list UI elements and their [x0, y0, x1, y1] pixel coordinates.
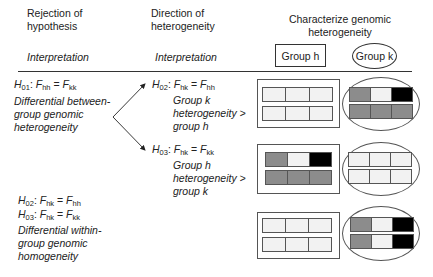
genome-segment	[351, 218, 372, 231]
genome-segment	[350, 105, 371, 118]
genome-segment	[263, 219, 286, 232]
genome-segment	[309, 238, 331, 251]
genome-segment	[310, 153, 331, 166]
genome-segment	[266, 153, 288, 166]
genome-segment	[309, 219, 331, 232]
row1-k-bar2	[349, 104, 413, 119]
row3-h-bar1	[262, 218, 332, 233]
genome-segment	[263, 107, 286, 120]
genome-segment	[371, 88, 392, 101]
genome-segment	[392, 105, 412, 118]
row3-k-bar1	[350, 217, 414, 232]
genome-segment	[349, 153, 370, 166]
middle-h03-interpretation: Group h heterogeneity > group k	[173, 159, 246, 198]
genome-segment	[391, 153, 411, 166]
genome-segment	[286, 219, 309, 232]
genome-segment	[349, 170, 370, 183]
genome-segment	[372, 218, 393, 231]
genome-segment	[288, 171, 310, 184]
genome-segment	[266, 171, 288, 184]
arrow-to-h02	[113, 84, 145, 117]
arrow-to-h03	[113, 117, 145, 150]
genome-segment	[370, 153, 391, 166]
middle-h03-equation: H03: Fhk = Fkk	[152, 143, 214, 159]
genome-segment	[288, 153, 310, 166]
genome-segment	[372, 235, 393, 248]
row2-k-bar1	[348, 152, 412, 167]
row3-h-bar2	[262, 237, 332, 252]
middle-h02-equation: H02: Fhk = Fhh	[152, 78, 215, 94]
genome-segment	[393, 218, 413, 231]
genome-segment	[371, 105, 392, 118]
row2-h-bar1	[265, 152, 332, 167]
genome-segment	[391, 170, 411, 183]
genome-segment	[310, 88, 332, 101]
genome-segment	[286, 107, 309, 120]
genome-segment	[310, 107, 332, 120]
row1-k-bar1	[349, 87, 413, 102]
row3-k-bar2	[350, 234, 414, 249]
genome-segment	[351, 235, 372, 248]
genome-segment	[393, 235, 413, 248]
genome-segment	[286, 88, 309, 101]
row2-h-bar2	[265, 170, 332, 185]
genome-segment	[392, 88, 412, 101]
row2-k-bar2	[348, 169, 412, 184]
genome-segment	[286, 238, 309, 251]
genome-segment	[310, 171, 331, 184]
row1-h-bar2	[262, 106, 333, 121]
row1-h-bar1	[262, 87, 333, 102]
genome-segment	[370, 170, 391, 183]
middle-h02-interpretation: Group k heterogeneity > group h	[173, 94, 246, 133]
genome-segment	[263, 88, 286, 101]
genome-segment	[350, 88, 371, 101]
genome-segment	[263, 238, 286, 251]
